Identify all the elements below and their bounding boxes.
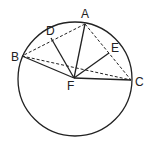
point-label-c: C xyxy=(135,76,144,88)
point-label-b: B xyxy=(11,51,19,63)
segment-DF xyxy=(51,38,74,78)
point-label-a: A xyxy=(81,8,89,20)
geometry-figure: A B C D E F xyxy=(0,0,152,144)
circle-diagram xyxy=(0,0,152,144)
segment-EF xyxy=(74,53,109,78)
segment-BF xyxy=(22,56,74,78)
point-label-d: D xyxy=(46,25,55,37)
point-label-e: E xyxy=(111,42,119,54)
point-label-f: F xyxy=(67,80,74,92)
